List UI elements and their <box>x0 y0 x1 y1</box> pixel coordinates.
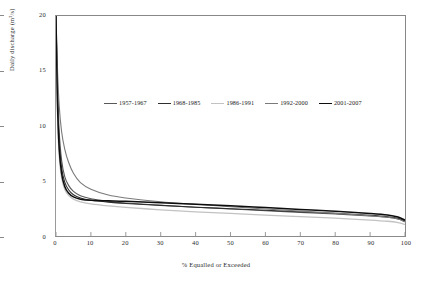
legend-label: 1968-1985 <box>173 100 201 106</box>
series-line-1968-1985 <box>56 16 405 221</box>
legend-label: 2001-2007 <box>334 100 362 106</box>
y-tick-label: 15 <box>39 67 46 74</box>
x-tick-label: 50 <box>227 240 234 247</box>
legend-label: 1992-2000 <box>280 100 308 106</box>
y-tick-mark <box>0 182 4 183</box>
x-axis: 0102030405060708090100 <box>0 240 432 254</box>
y-tick-label: 5 <box>43 178 46 185</box>
legend-item-1968-1985: 1968-1985 <box>158 100 201 106</box>
y-axis-title: Daily discharge (m³/s) <box>9 0 16 71</box>
series-line-1992-2000 <box>56 16 405 222</box>
plot-area <box>55 15 406 237</box>
x-tick-label: 0 <box>53 240 56 247</box>
legend-swatch-icon <box>319 103 332 104</box>
series-line-2001-2007 <box>56 16 405 220</box>
x-axis-title: % Equalled or Exceeded <box>0 262 432 269</box>
x-tick-label: 100 <box>401 240 411 247</box>
legend-item-1957-1967: 1957-1967 <box>104 100 147 106</box>
y-tick-mark <box>0 126 4 127</box>
y-tick-mark <box>0 71 4 72</box>
legend: 1957-19671968-19851986-19911992-20002001… <box>104 100 362 106</box>
x-tick-label: 70 <box>297 240 304 247</box>
legend-label: 1986-1991 <box>226 100 254 106</box>
legend-swatch-icon <box>265 103 278 104</box>
x-tick-label: 20 <box>122 240 129 247</box>
x-tick-label: 10 <box>87 240 94 247</box>
legend-item-1992-2000: 1992-2000 <box>265 100 308 106</box>
legend-item-2001-2007: 2001-2007 <box>319 100 362 106</box>
legend-label: 1957-1967 <box>119 100 147 106</box>
y-tick-label: 20 <box>39 12 46 19</box>
x-tick-label: 30 <box>157 240 164 247</box>
chart-lines-svg <box>56 16 405 236</box>
legend-swatch-icon <box>158 103 171 104</box>
series-line-1957-1967 <box>56 16 405 222</box>
legend-swatch-icon <box>104 103 117 104</box>
legend-item-1986-1991: 1986-1991 <box>211 100 254 106</box>
y-tick-label: 10 <box>39 123 46 130</box>
flow-duration-curve-figure: 05101520 Daily discharge (m³/s) 01020304… <box>0 0 432 284</box>
x-tick-label: 80 <box>332 240 339 247</box>
x-tick-label: 90 <box>367 240 374 247</box>
x-tick-label: 60 <box>262 240 269 247</box>
series-line-1986-1991 <box>56 16 405 224</box>
y-tick-mark <box>0 15 4 16</box>
legend-swatch-icon <box>211 103 224 104</box>
x-tick-label: 40 <box>192 240 199 247</box>
y-tick-mark <box>0 237 4 238</box>
